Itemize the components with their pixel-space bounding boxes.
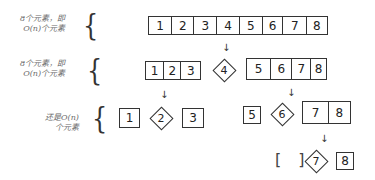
array-cell: 7 bbox=[282, 16, 307, 35]
level-3-brace: { bbox=[92, 103, 107, 133]
array-cell: 7 bbox=[291, 58, 311, 80]
level-1-brace: { bbox=[83, 10, 98, 40]
level-2-brace: { bbox=[87, 55, 102, 85]
array-cell: 8 bbox=[336, 152, 354, 170]
pivot-7: 7 bbox=[305, 150, 327, 172]
level-2-label-line2: O(n)个元素 bbox=[20, 69, 65, 79]
pivot-2: 2 bbox=[150, 107, 172, 129]
level-3-label: 还是O(n) 个元素 bbox=[45, 113, 79, 133]
pivot-4: 4 bbox=[213, 59, 235, 81]
array-cell: 8 bbox=[306, 16, 328, 35]
array-cell: 6 bbox=[262, 16, 284, 35]
array-cell: 1 bbox=[148, 16, 172, 35]
level-3-array-1: 1 bbox=[119, 108, 140, 128]
level-4-array-8: 8 bbox=[336, 152, 354, 170]
array-cell: 8 bbox=[328, 101, 351, 124]
pivot-value: 2 bbox=[158, 112, 165, 125]
array-cell: 8 bbox=[310, 58, 327, 80]
arrow-down-icon: ↓ bbox=[287, 88, 295, 98]
level-2-label: 8个元素，即 O(n)个元素 bbox=[20, 59, 65, 79]
array-cell: 1 bbox=[119, 108, 140, 128]
pivot-value: 6 bbox=[279, 108, 286, 121]
level-3-array-3: 3 bbox=[182, 108, 204, 128]
array-cell: 2 bbox=[171, 16, 195, 35]
array-cell: 5 bbox=[246, 58, 271, 80]
level-3-array-78: 7 8 bbox=[302, 101, 351, 124]
level-2-right-array: 5 6 7 8 bbox=[246, 58, 327, 80]
array-cell: 4 bbox=[216, 16, 240, 35]
level-1-label: 8个元素，即 O(n)个元素 bbox=[20, 14, 65, 34]
level-2-left-array: 1 2 3 bbox=[145, 61, 201, 80]
array-cell: 7 bbox=[302, 101, 329, 124]
level-2-label-line1: 8个元素，即 bbox=[20, 59, 65, 69]
arrow-down-icon: ↓ bbox=[320, 134, 328, 144]
array-cell: 1 bbox=[145, 61, 164, 80]
arrow-down-icon: ↓ bbox=[222, 43, 230, 53]
array-cell: 3 bbox=[180, 61, 201, 80]
level-3-array-5: 5 bbox=[243, 106, 261, 124]
level-3-label-line1: 还是O(n) bbox=[45, 113, 79, 123]
pivot-value: 7 bbox=[313, 155, 320, 168]
array-cell: 5 bbox=[239, 16, 263, 35]
array-cell: 2 bbox=[163, 61, 182, 80]
pivot-6: 6 bbox=[271, 103, 293, 125]
arrow-down-icon: ↓ bbox=[160, 90, 168, 100]
pivot-value: 4 bbox=[221, 64, 228, 77]
level-1-label-line2: O(n)个元素 bbox=[20, 24, 65, 34]
array-cell: 6 bbox=[270, 58, 293, 80]
level-1-array: 1 2 3 4 5 6 7 8 bbox=[148, 16, 328, 35]
array-cell: 3 bbox=[193, 16, 217, 35]
array-cell: 3 bbox=[182, 108, 204, 128]
level-3-label-line2: 个元素 bbox=[45, 123, 79, 133]
level-1-label-line1: 8个元素，即 bbox=[20, 14, 65, 24]
array-cell: 5 bbox=[243, 106, 261, 124]
